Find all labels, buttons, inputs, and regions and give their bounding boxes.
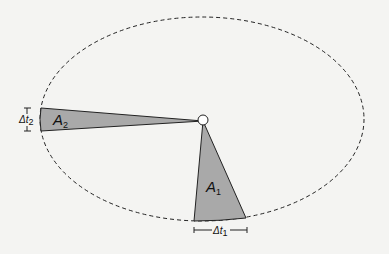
delta-t2-label: Δt2	[18, 114, 34, 127]
area-a1-wedge	[194, 121, 246, 221]
kepler-diagram: A2 A1 Δt2 Δt1	[0, 0, 389, 254]
focus-sun	[198, 115, 208, 125]
delta-t1-label: Δt1	[212, 225, 228, 238]
